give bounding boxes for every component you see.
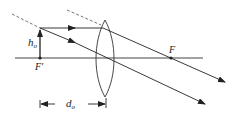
focal-point-right-dot [169,56,172,59]
lens-ray-diagram: ho F' F do [0,0,238,130]
dashed-extension-2 [67,10,101,25]
dashed-extension-1 [12,14,40,28]
ray-refracted-through-F [103,28,225,82]
focal-point-right-label: F [168,44,176,55]
focal-point-left-label: F' [34,61,44,72]
object-distance-label: do [66,97,76,111]
focal-point-left-dot [38,56,41,59]
ray-center-cont [74,42,205,104]
ray-center [40,28,75,43]
object-height-label: ho [28,36,38,50]
